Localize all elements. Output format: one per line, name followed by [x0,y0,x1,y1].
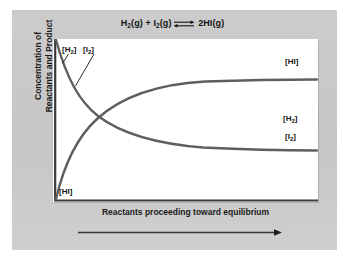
y-axis-label: Concentration of Reactants and Product [33,0,55,141]
curves-svg [53,39,318,202]
equation-plus-sign: + [145,18,150,28]
equation-reactant-i2: I2(g) [153,18,171,28]
equilibrium-double-arrow-icon [173,19,195,29]
plot-area [53,39,318,202]
reactant-concentration-curve [56,40,317,151]
x-axis-label: Reactants proceeding toward equilibrium [53,207,318,217]
curve-label-hi-right: [HI] [285,57,298,66]
product-concentration-curve [56,80,317,200]
y-axis-label-line1: Concentration of [33,0,44,141]
equation-reactant-h2: H2(g) [121,18,143,28]
curve-label-i2-right: [I2] [285,132,296,142]
equilibrium-concentration-figure: H2(g) + I2(g) 2HI(g) Concentration of Re… [0,0,345,257]
equation-product-hi: 2HI(g) [198,18,224,28]
curve-label-h2-top: [H2] [62,45,76,55]
h2-leader-line [63,54,69,64]
x-axis-direction-arrow-icon [78,228,283,237]
curve-label-hi-bottom: [HI] [59,187,72,196]
curve-label-h2-right: [H2] [283,114,297,124]
curve-label-i2-top: [I2] [83,45,94,55]
i2-leader-line [76,54,95,86]
